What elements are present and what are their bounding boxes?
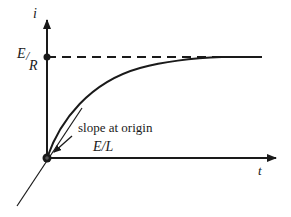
asymptote-label-denominator: R: [29, 58, 38, 74]
x-axis-label: t: [258, 163, 262, 179]
asymptote-label-numerator: E: [17, 46, 26, 62]
y-axis-label: i: [33, 6, 37, 22]
origin-dot-inner: [45, 156, 49, 160]
asymptote-dot: [44, 54, 51, 61]
current-curve: [47, 57, 222, 158]
annotation-value: E/L: [93, 139, 113, 155]
rl-current-diagram: [0, 0, 291, 217]
annotation-text: slope at origin: [78, 120, 152, 136]
annotation-arrow: [54, 136, 72, 152]
